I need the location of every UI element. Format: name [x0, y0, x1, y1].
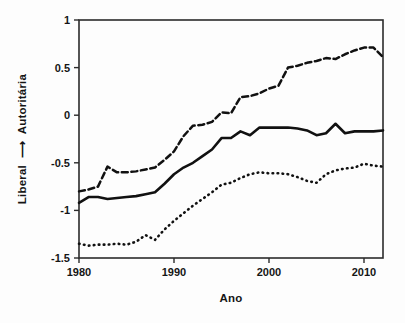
y-axis-title-left: Liberal: [16, 165, 28, 204]
y-tick-label: -0.5: [51, 157, 70, 169]
x-tick-label: 1990: [162, 266, 186, 278]
x-tick-label: 1980: [67, 266, 91, 278]
series-lower-bound: [79, 164, 383, 246]
x-tick-label: 2000: [257, 266, 281, 278]
y-axis-title-arrow-icon: ⟶: [16, 141, 28, 158]
data-series-group: [79, 48, 383, 246]
chart-figure: 10.50-0.5-1-1.5 1980199020002010 Ano Lib…: [0, 0, 405, 323]
y-tick-label: -1.5: [51, 252, 70, 264]
y-axis-title-text: Liberal ⟶ Autoritária: [16, 73, 28, 204]
chart-canvas: 10.50-0.5-1-1.5 1980199020002010 Ano Lib…: [0, 0, 405, 323]
y-tick-label: 0.5: [55, 62, 70, 74]
y-tick-label: 1: [64, 14, 70, 26]
x-tick-label: 2010: [352, 266, 376, 278]
series-point-estimate: [79, 124, 383, 203]
y-axis-title-right: Autoritária: [16, 73, 28, 134]
y-tick-label: -1: [60, 204, 70, 216]
x-axis-title: Ano: [220, 292, 243, 304]
y-tick-label: 0: [64, 109, 70, 121]
x-axis-tick-labels: 1980199020002010: [67, 266, 376, 278]
y-axis-title: Liberal ⟶ Autoritária: [16, 73, 28, 204]
y-axis-tick-labels: 10.50-0.5-1-1.5: [51, 14, 70, 264]
